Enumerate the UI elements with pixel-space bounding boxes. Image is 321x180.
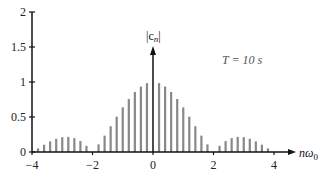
up-arrow-icon [150,46,156,55]
x-axis-arrow-icon [288,149,296,155]
y-tick-label: 1.5 [11,40,26,54]
y-tick-label: 2 [20,5,26,19]
y-tick-label: 1 [20,75,26,89]
x-tick-label: 0 [150,158,156,172]
y-axis-label: |cn| [146,29,161,44]
x-tick-label: 2 [211,158,217,172]
y-tick-label: 0 [20,145,26,159]
x-tick-label: −4 [26,158,39,172]
period-annotation: T = 10 s [222,53,263,67]
x-axis-label: nω0 [299,146,318,162]
spectrum-chart: 00.511.52−4−2024 |cn| T = 10 s nω0 [0,0,321,180]
y-tick-label: 0.5 [11,110,26,124]
x-tick-label: −2 [86,158,99,172]
x-tick-label: 4 [271,158,277,172]
